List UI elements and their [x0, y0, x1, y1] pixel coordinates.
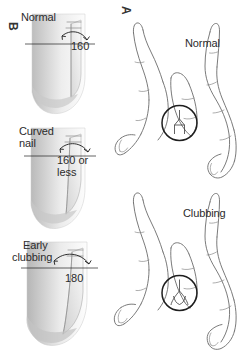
panel-b-label-curved-nail-line1: Curved [19, 126, 54, 138]
panel-b-label-early-clubbing-line1: Early [23, 240, 48, 252]
panel-b-angle-curved-nail-line1: 160 or [57, 154, 88, 166]
rotated-stage: A [0, 0, 245, 354]
panel-b-angle-early-clubbing: 180 [65, 272, 83, 284]
panel-a-letter: A [119, 6, 133, 15]
panel-a-label-clubbing: Clubbing [183, 208, 226, 220]
normal-profile [11, 14, 111, 120]
figure-root: A [0, 0, 245, 354]
normal-profile-photo [11, 14, 111, 120]
panel-b-angle-curved-nail-line2: less [57, 166, 77, 178]
normal-hands [115, 22, 241, 182]
panel-b-label-curved-nail-line2: nail [19, 138, 36, 150]
panel-a: A [113, 0, 245, 354]
panel-b-label-early-clubbing-line2: clubbing [12, 252, 52, 264]
panel-b: B [0, 0, 113, 354]
panel-b-angle-normal: 160 [71, 40, 89, 52]
panel-a-label-normal: Normal [185, 38, 220, 50]
normal-hands-drawing [115, 22, 241, 182]
panel-b-label-normal: Normal [21, 12, 56, 24]
